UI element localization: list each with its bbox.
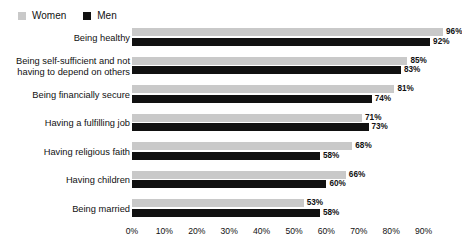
bar-value-label: 68%: [352, 142, 371, 150]
x-axis-tick-label: 60%: [318, 226, 335, 236]
bar-women[interactable]: [132, 171, 346, 179]
bar-row-men[interactable]: 73%: [132, 123, 456, 131]
bars-container: 71%73%: [132, 114, 456, 133]
bar-row-women[interactable]: 66%: [132, 171, 456, 179]
bar-value-label: 83%: [401, 66, 420, 74]
bars-container: 66%60%: [132, 171, 456, 190]
bar-value-label: 96%: [443, 28, 462, 36]
square-swatch-icon: [18, 12, 26, 20]
bar-men[interactable]: [132, 95, 372, 103]
bar-row-women[interactable]: 71%: [132, 114, 456, 122]
bars-container: 53%58%: [132, 199, 456, 218]
x-axis-tick-label: 80%: [383, 226, 400, 236]
bar-row-men[interactable]: 58%: [132, 152, 456, 160]
bar-women[interactable]: [132, 28, 443, 36]
x-axis-tick-label: 30%: [221, 226, 238, 236]
category-label-line: Being financially secure: [4, 89, 130, 100]
bar-row-women[interactable]: 53%: [132, 199, 456, 207]
bar-men[interactable]: [132, 209, 320, 217]
x-axis-tick-label: 0%: [126, 226, 138, 236]
bar-value-label: 85%: [407, 57, 426, 65]
bar-row-men[interactable]: 92%: [132, 38, 456, 46]
category-label-line: having to depend on others: [4, 66, 130, 77]
bar-row-women[interactable]: 68%: [132, 142, 456, 150]
bar-value-label: 58%: [320, 152, 339, 160]
category-label-line: Being married: [4, 203, 130, 214]
category-label: Having a fulfilling job: [4, 118, 130, 129]
x-axis-tick-label: 20%: [188, 226, 205, 236]
bar-value-label: 60%: [326, 180, 345, 188]
bar-women[interactable]: [132, 199, 304, 207]
category-label-line: Being healthy: [4, 32, 130, 43]
bar-group: Being self-sufficient and nothaving to d…: [0, 57, 456, 76]
bar-row-women[interactable]: 96%: [132, 28, 456, 36]
bar-group: Having children66%60%: [0, 171, 456, 190]
bar-men[interactable]: [132, 123, 369, 131]
bar-row-women[interactable]: 85%: [132, 57, 456, 65]
bars-container: 68%58%: [132, 142, 456, 161]
category-label: Having children: [4, 175, 130, 186]
category-label-line: Being self-sufficient and not: [4, 56, 130, 67]
bars-container: 96%92%: [132, 28, 456, 47]
x-axis-tick-label: 10%: [156, 226, 173, 236]
bar-group: Being financially secure81%74%: [0, 85, 456, 104]
x-axis: 0%10%20%30%40%50%60%70%80%90%: [132, 226, 456, 238]
legend-entry-women[interactable]: Women: [18, 11, 66, 21]
bars-container: 81%74%: [132, 85, 456, 104]
bar-men[interactable]: [132, 152, 320, 160]
bar-group: Having religious faith68%58%: [0, 142, 456, 161]
bar-value-label: 71%: [362, 114, 381, 122]
x-axis-tick-label: 90%: [415, 226, 432, 236]
category-label: Having religious faith: [4, 146, 130, 157]
bar-men[interactable]: [132, 38, 430, 46]
legend-entry-men[interactable]: Men: [83, 11, 116, 21]
category-label-line: Having religious faith: [4, 146, 130, 157]
x-axis-tick-label: 70%: [350, 226, 367, 236]
bar-value-label: 74%: [372, 95, 391, 103]
bar-women[interactable]: [132, 114, 362, 122]
bar-row-men[interactable]: 74%: [132, 95, 456, 103]
legend-label: Women: [32, 11, 66, 21]
bar-value-label: 73%: [369, 123, 388, 131]
category-label-line: Having children: [4, 175, 130, 186]
category-label: Being healthy: [4, 32, 130, 43]
bar-row-women[interactable]: 81%: [132, 85, 456, 93]
category-label-line: Having a fulfilling job: [4, 118, 130, 129]
plot-area: Being healthy96%92%Being self-sufficient…: [0, 26, 456, 220]
square-swatch-icon: [83, 12, 91, 20]
bar-value-label: 92%: [430, 38, 449, 46]
bar-value-label: 81%: [394, 85, 413, 93]
chart-legend: WomenMen: [18, 9, 117, 23]
bar-men[interactable]: [132, 66, 401, 74]
bar-group: Being healthy96%92%: [0, 28, 456, 47]
bar-women[interactable]: [132, 57, 407, 65]
category-label: Being financially secure: [4, 89, 130, 100]
bar-women[interactable]: [132, 85, 394, 93]
bar-group: Having a fulfilling job71%73%: [0, 114, 456, 133]
x-axis-tick-label: 40%: [253, 226, 270, 236]
x-axis-tick-label: 50%: [285, 226, 302, 236]
category-label: Being self-sufficient and nothaving to d…: [4, 56, 130, 77]
bars-container: 85%83%: [132, 57, 456, 76]
bar-value-label: 58%: [320, 209, 339, 217]
legend-label: Men: [97, 11, 116, 21]
bar-women[interactable]: [132, 142, 352, 150]
category-label: Being married: [4, 203, 130, 214]
bar-value-label: 53%: [304, 199, 323, 207]
bar-row-men[interactable]: 58%: [132, 209, 456, 217]
bar-row-men[interactable]: 60%: [132, 180, 456, 188]
bar-value-label: 66%: [346, 171, 365, 179]
bar-group: Being married53%58%: [0, 199, 456, 218]
bar-men[interactable]: [132, 180, 326, 188]
bar-row-men[interactable]: 83%: [132, 66, 456, 74]
